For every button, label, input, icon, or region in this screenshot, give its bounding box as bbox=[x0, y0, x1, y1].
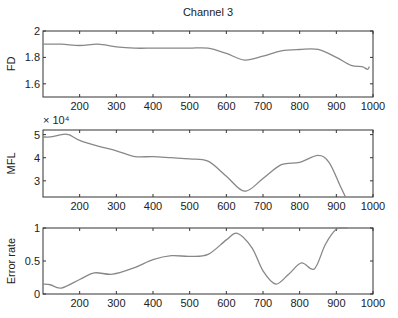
y-axis-label: FD bbox=[5, 57, 17, 72]
x-tick-label: 200 bbox=[70, 200, 88, 212]
x-tick-label: 200 bbox=[70, 297, 88, 309]
y-tick-label: 5 bbox=[34, 129, 40, 141]
chart-title: Channel 3 bbox=[183, 6, 233, 18]
x-tick-label: 700 bbox=[254, 297, 272, 309]
x-tick-label: 900 bbox=[327, 200, 345, 212]
x-tick-label: 400 bbox=[144, 100, 162, 112]
y-tick-label: 1.6 bbox=[25, 78, 40, 90]
data-line bbox=[43, 228, 347, 288]
x-tick-label: 900 bbox=[327, 100, 345, 112]
data-line bbox=[43, 44, 369, 69]
y-tick-label: 0 bbox=[34, 288, 40, 300]
panel-2: 2003004005006007008009001000345MFL× 10⁴ bbox=[5, 114, 385, 212]
y-tick-label: 1 bbox=[34, 222, 40, 234]
panel-3: 200300400500600700800900100000.51Error r… bbox=[5, 222, 385, 309]
x-tick-label: 500 bbox=[180, 297, 198, 309]
y-tick-label: 2 bbox=[34, 25, 40, 37]
x-tick-label: 300 bbox=[107, 297, 125, 309]
y-tick-label: 3 bbox=[34, 175, 40, 187]
x-tick-label: 800 bbox=[290, 100, 308, 112]
data-line bbox=[43, 134, 346, 197]
x-tick-label: 1000 bbox=[361, 297, 385, 309]
x-tick-label: 300 bbox=[107, 200, 125, 212]
x-tick-label: 700 bbox=[254, 100, 272, 112]
y-tick-label: 0.5 bbox=[25, 255, 40, 267]
axes-box bbox=[43, 31, 373, 97]
x-tick-label: 400 bbox=[144, 297, 162, 309]
x-tick-label: 400 bbox=[144, 200, 162, 212]
panel-1: 20030040050060070080090010001.61.82FD bbox=[5, 25, 385, 112]
x-tick-label: 800 bbox=[290, 200, 308, 212]
axes-box bbox=[43, 228, 373, 294]
y-tick-label: 1.8 bbox=[25, 51, 40, 63]
axes-box bbox=[43, 130, 373, 197]
x-tick-label: 200 bbox=[70, 100, 88, 112]
x-tick-label: 900 bbox=[327, 297, 345, 309]
x-tick-label: 600 bbox=[217, 297, 235, 309]
x-tick-label: 800 bbox=[290, 297, 308, 309]
y-multiplier: × 10⁴ bbox=[43, 114, 70, 126]
x-tick-label: 600 bbox=[217, 100, 235, 112]
x-tick-label: 1000 bbox=[361, 200, 385, 212]
y-tick-label: 4 bbox=[34, 152, 40, 164]
chart-figure: Channel 3 20030040050060070080090010001.… bbox=[0, 0, 398, 318]
y-axis-label: MFL bbox=[5, 153, 17, 175]
x-tick-label: 700 bbox=[254, 200, 272, 212]
x-tick-label: 500 bbox=[180, 200, 198, 212]
x-tick-label: 300 bbox=[107, 100, 125, 112]
y-axis-label: Error rate bbox=[5, 238, 17, 284]
x-tick-label: 600 bbox=[217, 200, 235, 212]
x-tick-label: 1000 bbox=[361, 100, 385, 112]
x-tick-label: 500 bbox=[180, 100, 198, 112]
